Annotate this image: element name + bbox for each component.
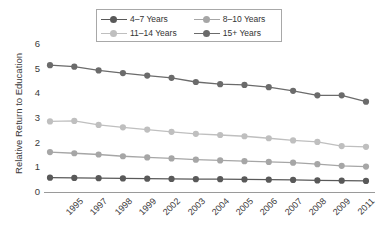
data-point [217,81,223,87]
data-point [96,122,102,128]
legend-marker-icon [194,15,220,24]
data-point [120,124,126,130]
legend-row: 11–14 Years 15+ Years [101,26,277,40]
data-point [71,175,77,181]
x-tick-label: 2002 [161,196,182,217]
legend-marker-icon [194,29,220,38]
data-point [193,176,199,182]
data-point [241,133,247,139]
data-point [339,178,345,184]
x-tick-label: 2005 [234,196,255,217]
data-point [290,177,296,183]
legend-marker-icon [101,29,127,38]
legend-label: 11–14 Years [130,28,177,38]
data-point [266,135,272,141]
data-point [47,62,53,68]
data-point [314,161,320,167]
data-point [96,67,102,73]
data-point [217,176,223,182]
y-tick-label: 3 [18,113,40,123]
x-tick-label: 2003 [185,196,206,217]
data-point [144,154,150,160]
data-point [266,159,272,165]
legend-label: 15+ Years [223,28,261,38]
series-15-years [47,62,369,105]
data-point [241,158,247,164]
y-tick-label: 5 [18,64,40,74]
y-tick-label: 1 [18,162,40,172]
data-point [290,160,296,166]
data-point [363,99,369,105]
x-tick-label: 2008 [307,196,328,217]
series-4-7-years [47,175,369,184]
legend-row: 4–7 Years 8–10 Years [101,12,277,26]
data-point [266,84,272,90]
series-11-14-years [47,118,369,150]
x-tick-label: 1997 [88,196,109,217]
x-tick-label: 2006 [258,196,279,217]
data-point [168,155,174,161]
legend-item-4-7-years[interactable]: 4–7 Years [101,12,194,26]
data-point [339,143,345,149]
data-point [47,175,53,181]
data-point [120,70,126,76]
legend-item-15-plus-years[interactable]: 15+ Years [194,26,277,40]
data-point [290,88,296,94]
legend-label: 8–10 Years [223,14,266,24]
data-point [120,175,126,181]
data-point [193,131,199,137]
data-point [241,176,247,182]
data-point [290,137,296,143]
y-tick-label: 2 [18,138,40,148]
data-point [339,92,345,98]
data-point [339,163,345,169]
y-tick-label: 0 [18,187,40,197]
legend-marker-icon [101,15,127,24]
y-axis-ticks: 0123456 [14,0,40,231]
data-point [71,64,77,70]
y-tick-label: 6 [18,39,40,49]
legend-item-8-10-years[interactable]: 8–10 Years [194,12,277,26]
y-tick-label: 4 [18,88,40,98]
x-tick-label: 1995 [64,196,85,217]
data-point [314,139,320,145]
data-point [96,151,102,157]
x-tick-label: 2007 [283,196,304,217]
data-point [71,118,77,124]
plot-area [44,44,374,192]
chart-legend: 4–7 Years 8–10 Years 11–14 Years [96,9,282,42]
data-point [314,177,320,183]
data-point [363,144,369,150]
data-point [144,72,150,78]
data-point [314,92,320,98]
data-point [168,176,174,182]
x-tick-label: 1998 [112,196,133,217]
data-point [241,82,247,88]
data-point [217,157,223,163]
legend-item-11-14-years[interactable]: 11–14 Years [101,26,194,40]
data-point [168,75,174,81]
data-point [47,118,53,124]
x-tick-label: 2011 [355,196,376,217]
data-point [193,79,199,85]
data-point [168,129,174,135]
series-8-10-years [47,149,369,170]
data-point [144,126,150,132]
x-tick-label: 1999 [137,196,158,217]
data-point [193,157,199,163]
data-point [71,150,77,156]
data-point [363,163,369,169]
data-point [96,175,102,181]
x-tick-label: 2004 [210,196,231,217]
data-point [120,153,126,159]
x-axis-ticks: 1995199719981999200220032004200520062007… [44,192,374,231]
data-point [266,177,272,183]
x-tick-label: 2009 [331,196,352,217]
data-point [217,132,223,138]
data-point [47,149,53,155]
chart-container: 4–7 Years 8–10 Years 11–14 Years [0,0,379,231]
series-canvas [44,44,374,192]
data-point [363,178,369,184]
data-point [144,176,150,182]
legend-label: 4–7 Years [130,14,168,24]
